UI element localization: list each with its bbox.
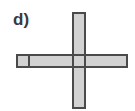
figure-label: d)	[13, 10, 29, 30]
center-square	[72, 54, 86, 68]
left-end-square	[16, 54, 30, 68]
